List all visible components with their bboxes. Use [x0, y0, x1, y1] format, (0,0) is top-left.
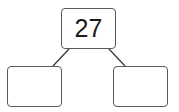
whole-value: 27	[75, 14, 103, 43]
connector-left	[53, 49, 69, 66]
part-box-left[interactable]	[7, 66, 62, 107]
whole-box: 27	[61, 8, 116, 49]
connector-right	[109, 49, 125, 66]
part-box-right[interactable]	[113, 66, 168, 107]
